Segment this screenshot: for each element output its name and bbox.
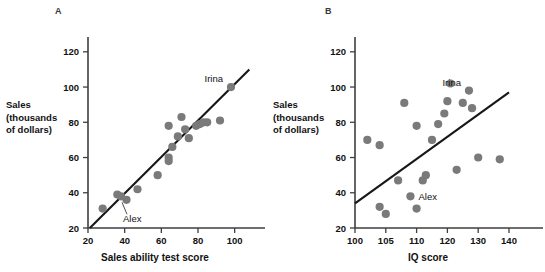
data-point — [465, 86, 473, 94]
data-point — [474, 153, 482, 161]
x-tick-label: 60 — [156, 235, 167, 246]
x-tick-label: 110 — [409, 235, 424, 246]
data-point — [185, 134, 193, 142]
panel-b: B Sales (thousands of dollars) 204060801… — [273, 0, 545, 272]
x-tick-label: 40 — [119, 235, 130, 246]
data-point — [453, 166, 461, 174]
y-tick-label: 120 — [330, 46, 346, 57]
data-point — [440, 109, 448, 117]
data-point — [168, 143, 176, 151]
data-point — [122, 196, 130, 204]
y-tick-label: 100 — [63, 82, 79, 93]
data-point — [203, 118, 211, 126]
data-point — [496, 155, 504, 163]
y-tick-label: 120 — [63, 46, 79, 57]
x-tick-label: 120 — [439, 235, 455, 246]
y-tick-label: 100 — [330, 82, 346, 93]
panel-a-plot-area: 2040608010012020406080100IrinaAlex — [0, 0, 272, 272]
data-point — [174, 132, 182, 140]
scatter-figure: A Sales (thousands of dollars) 204060801… — [0, 0, 545, 272]
data-point — [400, 99, 408, 107]
y-tick-label: 80 — [68, 117, 79, 128]
y-tick-label: 20 — [335, 223, 346, 234]
x-tick-label: 100 — [347, 235, 363, 246]
y-tick-label: 60 — [335, 152, 346, 163]
data-point — [363, 136, 371, 144]
data-point — [133, 185, 141, 193]
x-tick-label: 80 — [193, 235, 204, 246]
y-tick-label: 40 — [335, 187, 346, 198]
annotation-label-irina: Irina — [442, 77, 461, 88]
data-point — [99, 205, 107, 213]
data-point — [165, 122, 173, 130]
data-point — [394, 176, 402, 184]
data-point — [382, 210, 390, 218]
panel-a-x-axis-label: Sales ability test score — [60, 252, 250, 263]
annotation-label-alex: Alex — [418, 191, 437, 202]
data-point — [434, 120, 442, 128]
data-point — [181, 125, 189, 133]
x-tick-label: 140 — [501, 235, 517, 246]
data-point — [177, 113, 185, 121]
x-tick-label: 130 — [470, 235, 486, 246]
annotation-label-irina: Irina — [205, 73, 224, 84]
data-point — [459, 99, 467, 107]
data-point — [422, 171, 430, 179]
data-point — [413, 205, 421, 213]
data-point — [227, 83, 235, 91]
data-point — [406, 192, 414, 200]
panel-b-plot-area: 20406080100120100105110120130140IrinaAle… — [273, 0, 545, 272]
data-point — [376, 141, 384, 149]
data-point — [413, 122, 421, 130]
panel-a: A Sales (thousands of dollars) 204060801… — [0, 0, 272, 272]
y-tick-label: 20 — [68, 223, 79, 234]
data-point — [165, 153, 173, 161]
data-point — [154, 171, 162, 179]
x-tick-label: 100 — [227, 235, 243, 246]
y-tick-label: 40 — [68, 187, 79, 198]
panel-b-x-axis-label: IQ score — [333, 252, 523, 263]
y-tick-label: 80 — [335, 117, 346, 128]
annotation-label-alex: Alex — [123, 213, 142, 224]
data-point — [428, 136, 436, 144]
data-point — [468, 104, 476, 112]
x-tick-label: 105 — [378, 235, 395, 246]
data-point — [376, 203, 384, 211]
data-point — [443, 97, 451, 105]
data-point — [216, 116, 224, 124]
x-tick-label: 20 — [83, 235, 94, 246]
y-tick-label: 60 — [68, 152, 79, 163]
